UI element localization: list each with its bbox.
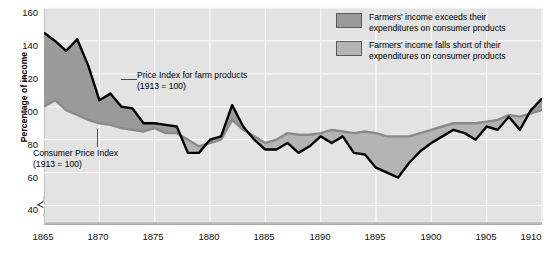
x-tick-1875: 1875 (133, 231, 173, 242)
x-tick-1865: 1865 (23, 231, 63, 242)
legend-swatch-short (336, 41, 362, 56)
legend-swatch-exceeds (336, 13, 362, 28)
x-tick-1885: 1885 (244, 231, 284, 242)
x-tick-1910: 1910 (511, 231, 551, 242)
annotation-cpi-line2: (1913 = 100) (33, 159, 173, 170)
x-tick-1895: 1895 (355, 231, 395, 242)
x-tick-1890: 1890 (300, 231, 340, 242)
legend-exceeds-line1: Farmers' income exceeds their (369, 12, 506, 23)
annotation-consumer-price-index: Consumer Price Index (1913 = 100) (33, 148, 173, 169)
annotation-farm-line1: Price Index for farm products (137, 70, 287, 81)
annotation-leader-cpi (97, 129, 98, 147)
annotation-cpi-line1: Consumer Price Index (33, 148, 173, 159)
annotation-farm-line2: (1913 = 100) (137, 81, 287, 92)
legend-item-exceeds: Farmers' income exceeds their expenditur… (336, 12, 541, 33)
x-tick-1905: 1905 (466, 231, 506, 242)
x-tick-1870: 1870 (78, 231, 118, 242)
legend-short-line2: expenditures on consumer products (369, 51, 506, 62)
legend-exceeds-line2: expenditures on consumer products (369, 23, 506, 34)
legend-item-short: Farmers' income falls short of their exp… (336, 40, 541, 61)
x-tick-1880: 1880 (189, 231, 229, 242)
legend-short-line1: Farmers' income falls short of their (369, 40, 506, 51)
annotation-farm-price-index: Price Index for farm products (1913 = 10… (137, 70, 287, 91)
x-tick-1900: 1900 (411, 231, 451, 242)
annotation-leader-farm (121, 79, 137, 80)
legend: Farmers' income exceeds their expenditur… (336, 12, 541, 68)
chart-root: Percentage of income 160 140 120 100 80 … (0, 0, 552, 260)
